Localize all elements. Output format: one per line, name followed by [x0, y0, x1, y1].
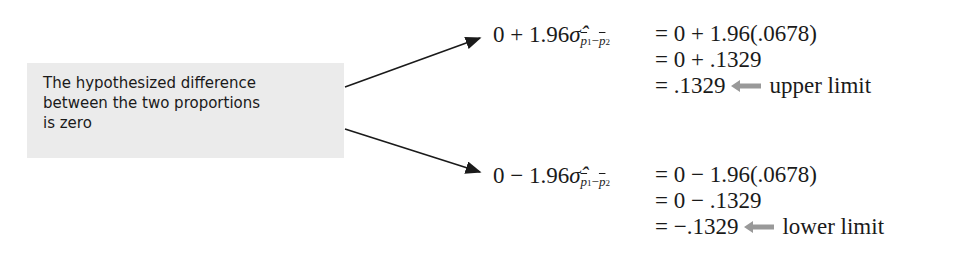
left-arrow-icon	[744, 221, 774, 233]
arrow-to-lower	[345, 129, 480, 172]
lower-step-3: = −.1329 lower limit	[655, 215, 884, 239]
arrow-to-upper	[345, 38, 480, 87]
upper-lhs: 0 + 1.96σ̂p1−p2	[493, 22, 610, 48]
lower-lhs: 0 − 1.96σ̂p1−p2	[493, 163, 610, 189]
left-arrow-icon	[731, 80, 761, 92]
upper-step-2: = 0 + .1329	[655, 48, 761, 72]
upper-step-1: = 0 + 1.96(.0678)	[655, 22, 817, 46]
upper-step-3: = .1329 upper limit	[655, 74, 871, 98]
upper-limit-label: upper limit	[769, 74, 871, 98]
lower-step-2: = 0 − .1329	[655, 189, 761, 213]
lower-limit-label: lower limit	[782, 215, 884, 239]
lower-step-1: = 0 − 1.96(.0678)	[655, 163, 817, 187]
